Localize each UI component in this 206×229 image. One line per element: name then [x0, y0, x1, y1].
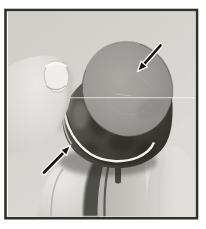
- annotated-photo-figure: [0, 0, 206, 229]
- photo-canvas: [0, 0, 206, 229]
- film-grain: [8, 12, 195, 217]
- photo-content: [7, 12, 200, 217]
